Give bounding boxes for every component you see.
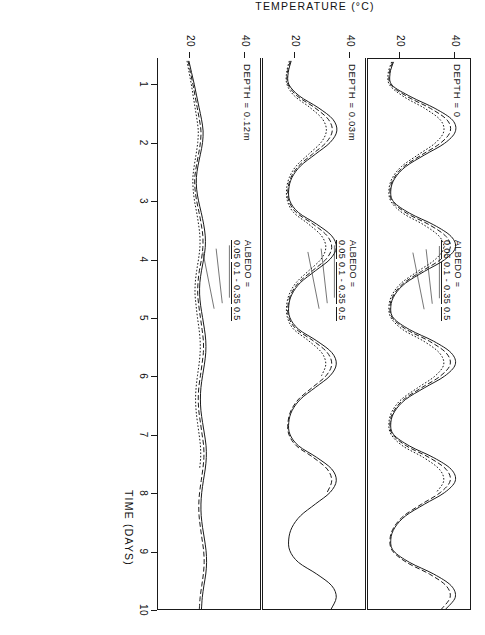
x-tick-label-6: 7 <box>138 432 149 438</box>
x-tick-7 <box>151 493 157 494</box>
y-axis-title: TEMPERATURE (°C) <box>255 0 374 12</box>
legend-item-0-2: 0.5 <box>441 307 453 321</box>
x-tick-9 <box>151 610 157 611</box>
x-tick-1 <box>151 143 157 144</box>
legend-2: ALBEDO = 0.05 0.1 - 0.35 0.5 <box>231 240 253 321</box>
legend-item-1-2: 0.5 <box>336 307 348 321</box>
x-tick-6 <box>151 435 157 436</box>
legend-item-0-1: 0.1 - 0.35 <box>441 262 453 304</box>
x-axis-title: TIME (DAYS) <box>123 490 135 566</box>
legend-title-1: ALBEDO = <box>348 240 359 321</box>
legend-item-2-1: 0.1 - 0.35 <box>231 262 243 304</box>
x-tick-label-1: 2 <box>138 140 149 146</box>
legend-leader-lines <box>413 246 440 309</box>
legend-1: ALBEDO = 0.05 0.1 - 0.35 0.5 <box>336 240 358 321</box>
depth-label-2: DEPTH = 0.12m <box>242 64 253 141</box>
panel-plot-0 <box>368 59 470 609</box>
x-tick-label-9: 10 <box>138 604 149 616</box>
legend-item-2-2: 0.5 <box>231 307 243 321</box>
depth-label-1: DEPTH = 0.03m <box>347 64 358 141</box>
x-tick-8 <box>151 552 157 553</box>
x-tick-4 <box>151 318 157 319</box>
series-line-dashed <box>287 61 332 492</box>
rotated-figure-wrapper: DEPTH = 0 ALBEDO = 0.05 0.1 - 0.35 0.5 D… <box>0 0 485 635</box>
x-tick-label-2: 3 <box>138 198 149 204</box>
y-tick-label-2-1: 40 <box>239 35 250 47</box>
series-line-solid <box>288 61 337 609</box>
series-line-solid <box>390 62 456 609</box>
panel-depth-0 <box>367 58 471 610</box>
x-tick-label-3: 4 <box>138 256 149 262</box>
legend-item-0-0: 0.05 <box>441 240 453 259</box>
x-tick-label-8: 9 <box>138 549 149 555</box>
y-tick-label-0-0: 20 <box>394 35 405 47</box>
legend-leader-lines <box>308 245 335 308</box>
y-tick-label-1-1: 40 <box>344 35 355 47</box>
x-tick-label-7: 8 <box>138 490 149 496</box>
y-tick-0-1 <box>454 52 455 58</box>
y-tick-1-1 <box>349 52 350 58</box>
y-tick-2-0 <box>189 52 190 58</box>
figure-canvas: DEPTH = 0 ALBEDO = 0.05 0.1 - 0.35 0.5 D… <box>0 0 485 635</box>
x-tick-0 <box>151 84 157 85</box>
legend-title-2: ALBEDO = <box>243 240 254 321</box>
x-tick-label-5: 6 <box>138 373 149 379</box>
series-line-dashed <box>188 61 204 609</box>
legend-leader-lines <box>203 245 230 308</box>
x-tick-3 <box>151 260 157 261</box>
series-line-dashed <box>389 62 451 609</box>
legend-item-1-0: 0.05 <box>336 240 348 259</box>
legend-0: ALBEDO = 0.05 0.1 - 0.35 0.5 <box>441 240 463 321</box>
leader-line-1 <box>426 249 432 303</box>
leader-line-1 <box>321 249 327 304</box>
legend-title-0: ALBEDO = <box>453 240 464 321</box>
legend-item-1-1: 0.1 - 0.35 <box>336 262 348 304</box>
leader-line-2 <box>308 252 319 309</box>
depth-label-0: DEPTH = 0 <box>452 64 463 118</box>
leader-line-1 <box>216 249 222 304</box>
y-tick-label-0-1: 40 <box>449 35 460 47</box>
x-tick-label-0: 1 <box>138 81 149 87</box>
y-tick-label-2-0: 20 <box>184 35 195 47</box>
y-tick-0-0 <box>399 52 400 58</box>
x-tick-5 <box>151 376 157 377</box>
series-line-dotted <box>187 61 201 469</box>
x-tick-label-4: 5 <box>138 315 149 321</box>
leader-line-2 <box>413 253 424 310</box>
y-tick-2-1 <box>244 52 245 58</box>
y-tick-1-0 <box>294 52 295 58</box>
legend-item-2-0: 0.05 <box>231 240 243 259</box>
y-tick-label-1-0: 20 <box>289 35 300 47</box>
x-tick-2 <box>151 201 157 202</box>
leader-line-2 <box>203 252 214 309</box>
series-line-dotted <box>388 62 444 493</box>
